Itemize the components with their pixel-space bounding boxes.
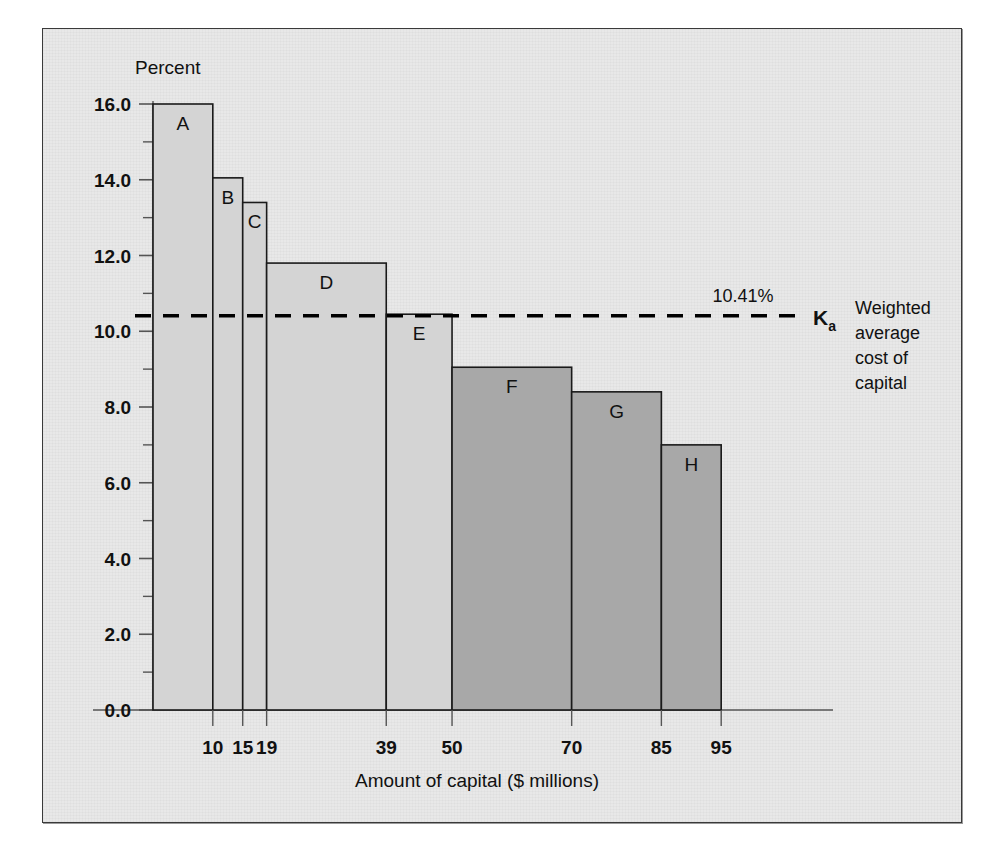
bar-c	[243, 202, 267, 710]
x-tick-label: 70	[561, 737, 582, 758]
y-tick-label: 4.0	[105, 549, 131, 570]
x-tick-label: 50	[441, 737, 462, 758]
bar-h	[661, 445, 721, 710]
x-tick-label: 10	[202, 737, 223, 758]
x-tick-label: 19	[256, 737, 277, 758]
figure-frame: Percent0.02.04.06.08.010.012.014.016.0AB…	[42, 28, 962, 823]
bar-label-a: A	[177, 113, 190, 134]
legend-line: Weighted	[855, 298, 931, 318]
x-tick-label: 85	[651, 737, 673, 758]
bar-label-h: H	[684, 454, 698, 475]
legend-line: average	[855, 323, 920, 343]
bar-label-c: C	[248, 211, 262, 232]
y-tick-label: 2.0	[105, 624, 131, 645]
y-axis-title: Percent	[135, 57, 201, 78]
bar-g	[572, 392, 662, 710]
x-axis-title: Amount of capital ($ millions)	[355, 770, 599, 791]
y-tick-label: 8.0	[105, 397, 131, 418]
bar-d	[267, 263, 387, 710]
x-tick-label: 39	[376, 737, 397, 758]
bar-f	[452, 367, 572, 710]
y-tick-label: 0.0	[105, 700, 131, 721]
ka-symbol: Ka	[813, 306, 836, 334]
y-tick-label: 16.0	[94, 94, 131, 115]
y-tick-label: 6.0	[105, 473, 131, 494]
ka-symbol-main: K	[813, 306, 828, 329]
x-tick-label: 15	[232, 737, 254, 758]
legend-line: capital	[855, 373, 907, 393]
legend-line: cost of	[855, 348, 909, 368]
y-tick-label: 14.0	[94, 170, 131, 191]
bar-a	[153, 104, 213, 710]
bar-label-d: D	[320, 272, 334, 293]
marginal-cost-of-capital-chart: Percent0.02.04.06.08.010.012.014.016.0AB…	[43, 29, 963, 824]
x-tick-label: 95	[711, 737, 733, 758]
bar-label-e: E	[413, 323, 426, 344]
ka-symbol-subscript: a	[828, 318, 836, 334]
reference-value-label: 10.41%	[712, 286, 773, 306]
y-tick-label: 10.0	[94, 321, 131, 342]
bar-label-g: G	[609, 401, 624, 422]
bar-e	[386, 314, 452, 710]
bar-label-f: F	[506, 376, 518, 397]
bar-label-b: B	[221, 187, 234, 208]
bar-b	[213, 178, 243, 710]
y-tick-label: 12.0	[94, 246, 131, 267]
